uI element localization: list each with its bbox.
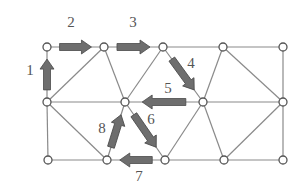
arrow-label: 3 bbox=[129, 14, 137, 30]
mesh-edge bbox=[125, 47, 163, 102]
mesh-node bbox=[220, 156, 228, 164]
mesh-edge bbox=[203, 102, 224, 160]
arrow-6-icon bbox=[128, 111, 162, 151]
arrow-5-icon bbox=[142, 95, 186, 109]
arrow-label: 6 bbox=[147, 111, 155, 127]
mesh-node bbox=[44, 156, 52, 164]
mesh-edge bbox=[203, 47, 223, 102]
mesh-node bbox=[121, 98, 129, 106]
arrow-label: 4 bbox=[187, 55, 195, 71]
arrow-8-icon bbox=[104, 113, 127, 150]
arrow-7-icon bbox=[120, 153, 152, 167]
mesh-node bbox=[219, 43, 227, 51]
mesh-canvas: 12345678 bbox=[0, 0, 305, 186]
arrow-label: 7 bbox=[135, 168, 143, 184]
mesh-diagram: 12345678 bbox=[0, 0, 305, 186]
arrow-3-icon bbox=[117, 40, 150, 54]
mesh-node bbox=[279, 156, 287, 164]
mesh-node bbox=[159, 43, 167, 51]
mesh-edge bbox=[223, 47, 283, 102]
arrow-label: 5 bbox=[164, 80, 172, 96]
mesh-edge bbox=[47, 102, 48, 160]
mesh-node bbox=[161, 156, 169, 164]
mesh-edge bbox=[165, 102, 203, 160]
arrow-label: 8 bbox=[98, 120, 106, 136]
mesh-edge bbox=[104, 47, 125, 102]
mesh-node bbox=[279, 43, 287, 51]
mesh-node bbox=[103, 156, 111, 164]
arrow-1-icon bbox=[40, 59, 54, 90]
arrow-2-icon bbox=[60, 40, 92, 54]
mesh-edge bbox=[47, 47, 104, 102]
mesh-node bbox=[100, 43, 108, 51]
arrow-label: 2 bbox=[67, 14, 75, 30]
mesh-edge bbox=[224, 102, 283, 160]
mesh-node bbox=[43, 98, 51, 106]
traversal-arrows bbox=[40, 40, 200, 167]
mesh-node bbox=[43, 43, 51, 51]
mesh-node bbox=[279, 98, 287, 106]
mesh-node bbox=[199, 98, 207, 106]
arrow-label: 1 bbox=[26, 62, 34, 78]
